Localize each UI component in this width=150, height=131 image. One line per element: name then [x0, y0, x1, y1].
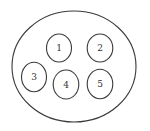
node-5-label: 5: [97, 79, 103, 89]
node-2: 2: [87, 34, 113, 62]
node-5: 5: [87, 69, 113, 99]
node-1: 1: [47, 34, 72, 62]
node-3-label: 3: [31, 72, 37, 82]
node-4-label: 4: [63, 80, 69, 90]
node-1-label: 1: [56, 43, 62, 53]
node-3: 3: [22, 62, 47, 92]
node-4: 4: [53, 70, 79, 99]
diagram-canvas: 1 2 3 4 5: [0, 0, 150, 131]
outer-ellipse: [12, 11, 136, 122]
node-2-label: 2: [97, 43, 103, 53]
